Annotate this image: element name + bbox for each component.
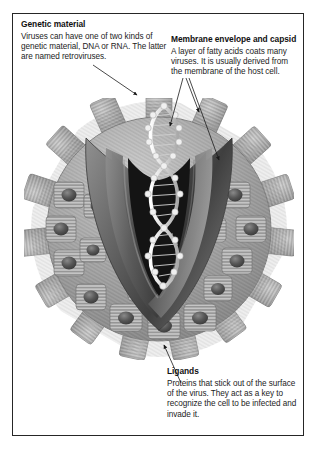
callout-genetic-material-body: Viruses can have one of two kinds of gen… [21,32,169,63]
callout-membrane-envelope-capsid: Membrane envelope and capsid A layer of … [171,34,299,78]
diagram-page: Genetic material Viruses can have one of… [0,0,317,456]
virus-illustration [24,98,294,360]
callout-membrane-envelope-capsid-title: Membrane envelope and capsid [171,34,299,45]
callout-membrane-envelope-capsid-body: A layer of fatty acids coats many viruse… [171,47,299,78]
callout-genetic-material: Genetic material Viruses can have one of… [21,19,169,63]
callout-ligands-title: Ligands [167,366,301,377]
callout-ligands: Ligands Proteins that stick out of the s… [167,366,301,420]
callout-genetic-material-title: Genetic material [21,19,169,30]
callout-ligands-body: Proteins that stick out of the surface o… [167,379,301,420]
